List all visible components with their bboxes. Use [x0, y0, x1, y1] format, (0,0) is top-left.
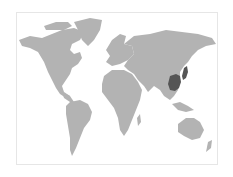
region-se-asia-islands[interactable] — [172, 102, 194, 112]
region-new-zealand[interactable] — [206, 140, 212, 152]
region-japan-highlighted[interactable] — [182, 66, 188, 80]
region-australia[interactable] — [178, 118, 204, 140]
region-north-america[interactable] — [19, 28, 84, 98]
world-map — [0, 0, 233, 177]
region-madagascar[interactable] — [137, 114, 141, 126]
region-south-america[interactable] — [66, 100, 92, 156]
region-central-america[interactable] — [62, 92, 74, 102]
region-africa[interactable] — [102, 70, 142, 136]
region-china-highlighted[interactable] — [168, 74, 181, 91]
region-arctic-islands[interactable] — [44, 22, 72, 30]
